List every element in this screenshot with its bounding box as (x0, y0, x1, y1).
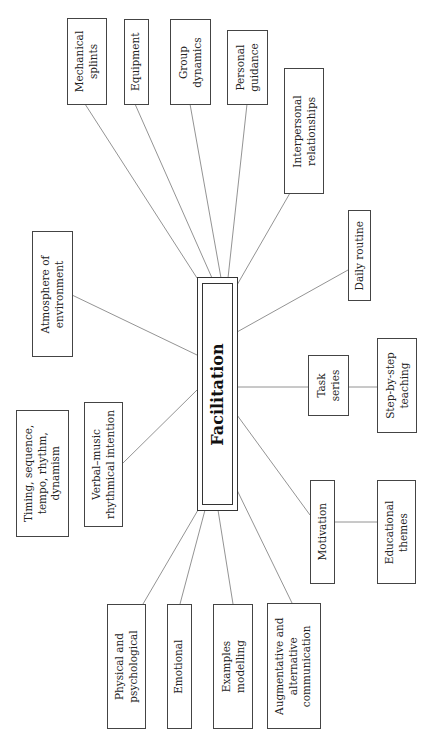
node-label: Step-by-step teaching (384, 352, 411, 419)
node-label: Group dynamics (177, 37, 204, 87)
node-label: Personal guidance (234, 43, 261, 92)
facilitation-label: Facilitation (208, 343, 227, 445)
node-label: Educational themes (383, 500, 410, 564)
node-interpersonal-relationships: Interpersonal relationships (284, 68, 324, 194)
node-augmentative-communication: Augmentative and alternative communicati… (267, 603, 321, 729)
node-emotional: Emotional (167, 604, 192, 729)
edge-examples (218, 510, 233, 604)
node-label: Timing, sequence, tempo, rhythm, dynamis… (22, 425, 63, 522)
node-label: Examples modelling (220, 640, 247, 693)
node-educational-themes: Educational themes (377, 480, 416, 584)
edge-physical (143, 510, 198, 604)
node-physical-psychological: Physical and psychological (107, 604, 146, 729)
edge-personal-guidance (228, 104, 247, 278)
node-daily-routine: Daily routine (348, 210, 371, 301)
node-atmosphere-of-environment: Atmosphere of environment (32, 231, 73, 357)
edge-verbal-music (122, 390, 197, 464)
node-group-dynamics: Group dynamics (170, 19, 211, 105)
node-examples-modelling: Examples modelling (213, 604, 253, 729)
edge-equipment (135, 104, 212, 278)
edge-emotional (180, 510, 205, 604)
node-personal-guidance: Personal guidance (227, 30, 268, 105)
node-equipment: Equipment (124, 19, 149, 105)
node-label: Equipment (130, 33, 144, 91)
node-label: Task series (315, 370, 342, 402)
node-label: Mechanical splints (74, 31, 101, 93)
node-label: Augmentative and alternative communicati… (274, 617, 315, 714)
edge-motivation (237, 415, 310, 515)
edge-daily-routine (237, 270, 348, 332)
node-task-series: Task series (308, 355, 349, 416)
edge-group-dynamics (190, 104, 221, 278)
node-step-by-step-teaching: Step-by-step teaching (377, 338, 417, 433)
node-label: Daily routine (353, 221, 367, 290)
node-timing-sequence: Timing, sequence, tempo, rhythm, dynamis… (16, 410, 69, 537)
edge-mechanical-splints (85, 104, 197, 278)
edge-interpersonal (237, 193, 290, 285)
node-label: Physical and psychological (113, 630, 140, 702)
node-label: Interpersonal relationships (291, 95, 318, 167)
edge-augmentative (237, 490, 292, 603)
facilitation-inner-box: Facilitation (202, 283, 233, 505)
node-motivation: Motivation (310, 480, 335, 584)
node-label: Verbal–music rhythmical intention (90, 410, 117, 519)
node-label: Emotional (173, 639, 187, 693)
node-label: Atmosphere of environment (39, 255, 66, 333)
node-mechanical-splints: Mechanical splints (67, 18, 107, 105)
edge-atmosphere (72, 295, 197, 355)
node-label: Motivation (316, 503, 330, 561)
node-verbal-music: Verbal–music rhythmical intention (84, 402, 123, 527)
